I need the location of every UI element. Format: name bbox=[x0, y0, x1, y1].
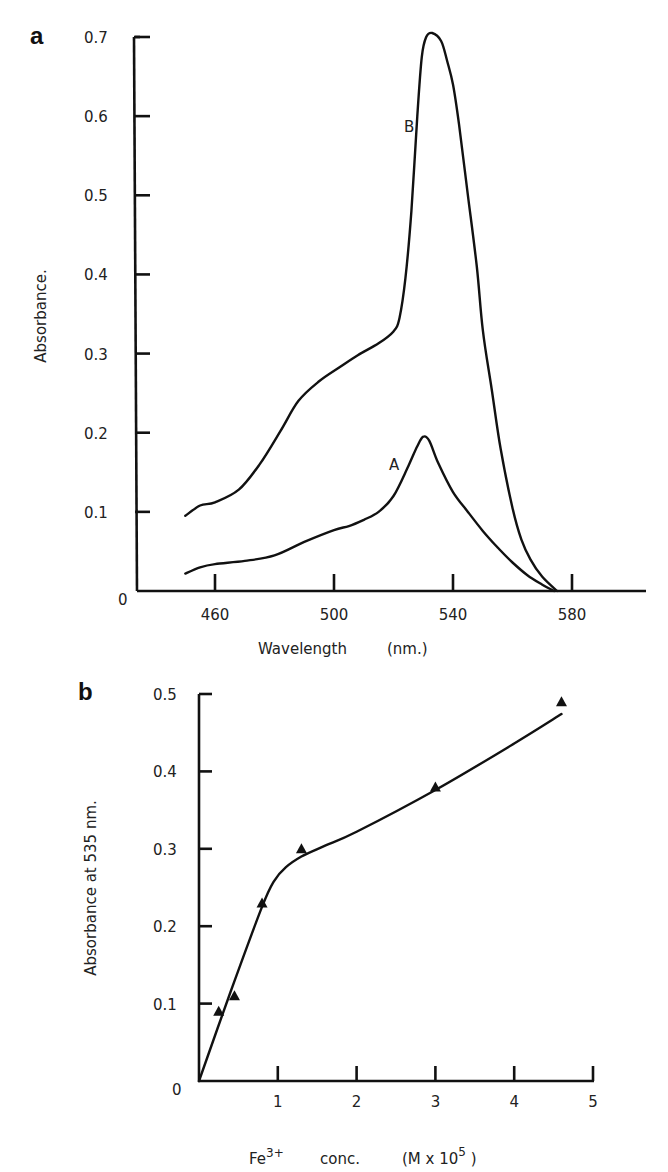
y-tick-label: 0.2 bbox=[84, 425, 108, 443]
y-tick-label: 0.1 bbox=[153, 996, 177, 1014]
x-tick-label: 3 bbox=[431, 1093, 441, 1111]
x-tick-label: 580 bbox=[558, 606, 587, 624]
y-tick-label: 0.1 bbox=[84, 504, 108, 522]
panel-b-x-conc: conc. bbox=[320, 1150, 360, 1168]
curve-a-label: A bbox=[389, 456, 400, 474]
panel-a-x-title: Wavelength bbox=[258, 640, 347, 658]
y-tick-label: 0.7 bbox=[84, 29, 108, 47]
figure: a 00.10.20.30.40.50.60.7 460500540580 B … bbox=[0, 0, 668, 1172]
panel-b-x-unit: (M x 105 ) bbox=[402, 1145, 477, 1168]
x-tick-label: 4 bbox=[509, 1093, 519, 1111]
panel-a-y-title: Absorbance. bbox=[32, 269, 50, 362]
panel-b-letter: b bbox=[78, 678, 93, 705]
curve-b bbox=[185, 33, 557, 591]
y-tick-label: 0.5 bbox=[153, 686, 177, 704]
y-tick-label: 0.3 bbox=[153, 841, 177, 859]
panel-a-x-unit: (nm.) bbox=[387, 640, 428, 658]
panel-a-y-ticks: 00.10.20.30.40.50.60.7 bbox=[84, 29, 150, 609]
x-tick-label: 460 bbox=[201, 606, 230, 624]
panel-a-letter: a bbox=[30, 22, 44, 49]
panel-b: b 00.10.20.30.40.5 12345 Absorbance at 5… bbox=[78, 678, 598, 1168]
triangle-marker-icon bbox=[296, 843, 307, 853]
panel-a-x-ticks: 460500540580 bbox=[201, 574, 587, 624]
panel-b-y-title: Absorbance at 535 nm. bbox=[82, 800, 100, 976]
triangle-marker-icon bbox=[430, 781, 441, 791]
panel-a: a 00.10.20.30.40.50.60.7 460500540580 B … bbox=[30, 22, 646, 658]
y-tick-label: 0.4 bbox=[153, 763, 177, 781]
y-tick-label: 0.3 bbox=[84, 346, 108, 364]
x-tick-label: 540 bbox=[439, 606, 468, 624]
y-tick-label: 0 bbox=[172, 1081, 182, 1099]
x-tick-label: 2 bbox=[352, 1093, 362, 1111]
y-tick-label: 0 bbox=[118, 591, 128, 609]
panel-a-y-axis bbox=[134, 37, 137, 591]
y-tick-label: 0.6 bbox=[84, 108, 108, 126]
panel-b-x-ticks: 12345 bbox=[273, 1066, 598, 1111]
fit-line bbox=[199, 714, 562, 1081]
y-tick-label: 0.2 bbox=[153, 918, 177, 936]
triangle-marker-icon bbox=[556, 696, 567, 706]
curve-a bbox=[185, 436, 554, 591]
panel-b-y-ticks: 00.10.20.30.40.5 bbox=[153, 686, 212, 1099]
x-tick-label: 1 bbox=[273, 1093, 283, 1111]
x-tick-label: 5 bbox=[588, 1093, 598, 1111]
curve-b-label: B bbox=[404, 118, 414, 136]
y-tick-label: 0.5 bbox=[84, 187, 108, 205]
panel-b-x-title: Fe3+ bbox=[249, 1146, 284, 1168]
y-tick-label: 0.4 bbox=[84, 266, 108, 284]
x-tick-label: 500 bbox=[320, 606, 349, 624]
